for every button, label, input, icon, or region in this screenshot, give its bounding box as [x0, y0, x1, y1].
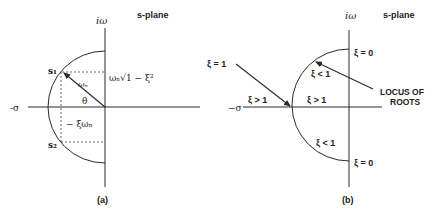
x-axis-label: −σ [228, 103, 242, 113]
y-axis-label: iω [345, 10, 356, 21]
caption-a: (a) [97, 195, 108, 205]
plane-title: s-plane [137, 10, 169, 20]
s-plane-diagram: iω s-plane -σ s₁ s₂ ωₙ θ ωₙ√1 − ξ² − ξωₙ… [0, 0, 435, 218]
xi-lt-one-lower-label: ξ < 1 [316, 138, 335, 148]
y-axis-label: iω [96, 15, 107, 26]
xi-lt-one-upper-label: ξ < 1 [311, 69, 330, 79]
real-part-label: − ξωₙ [66, 119, 93, 129]
xi-gt-one-right-label: ξ > 1 [307, 95, 326, 105]
radius-label: ωₙ [78, 80, 88, 89]
locus-label-line2: ROOTS [390, 97, 421, 107]
panel-b: iω s-plane −σ ξ = 1 ξ > 1 ξ > 1 ξ < 1 ξ … [207, 10, 424, 205]
xi-gt-one-left-label: ξ > 1 [248, 95, 267, 105]
locus-label-line1: LOCUS OF [380, 87, 424, 97]
angle-label: θ [82, 96, 87, 106]
pole-s2-label: s₂ [48, 140, 57, 150]
xi-zero-upper-label: ξ = 0 [354, 48, 373, 58]
pole-s1-label: s₁ [48, 66, 57, 76]
xi-equal-one-label: ξ = 1 [207, 59, 226, 69]
imag-part-label: ωₙ√1 − ξ² [109, 73, 154, 83]
plane-title: s-plane [383, 10, 415, 20]
x-axis-label: -σ [10, 103, 19, 113]
panel-a: iω s-plane -σ s₁ s₂ ωₙ θ ωₙ√1 − ξ² − ξωₙ… [10, 10, 200, 205]
caption-b: (b) [342, 195, 354, 205]
xi-zero-lower-label: ξ = 0 [354, 158, 373, 168]
